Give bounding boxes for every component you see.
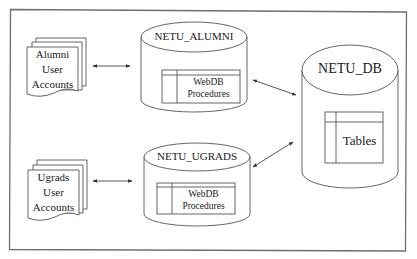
netu-db-tables-label: Tables bbox=[336, 134, 383, 149]
ugrads-accounts-line-1: Ugrads bbox=[28, 170, 79, 185]
netu-alumni-procedures-line-1: WebDB bbox=[177, 76, 240, 88]
netu-ugrads-procedures-line-1: WebDB bbox=[172, 188, 235, 200]
netu-alumni-procedures-label: WebDB Procedures bbox=[177, 76, 240, 100]
alumni-accounts-line-2: User bbox=[27, 62, 78, 77]
netu-ugrads-procedures-line-2: Procedures bbox=[172, 200, 235, 212]
netu-ugrads-title: NETU_UGRADS bbox=[144, 150, 250, 163]
netu-ugrads-procedures-label: WebDB Procedures bbox=[172, 188, 235, 212]
ugrads-accounts-label: Ugrads User Accounts bbox=[28, 170, 79, 215]
alumni-accounts-line-3: Accounts bbox=[27, 77, 78, 92]
netu-alumni-procedures-line-2: Procedures bbox=[177, 88, 240, 100]
netu-alumni-title: NETU_ALUMNI bbox=[141, 30, 247, 43]
arrow-netu-ugrads-to-netu-db bbox=[253, 142, 293, 167]
alumni-accounts-line-1: Alumni bbox=[27, 47, 78, 62]
ugrads-accounts-line-2: User bbox=[28, 185, 79, 200]
netu-db-title: NETU_DB bbox=[302, 61, 398, 77]
alumni-accounts-label: Alumni User Accounts bbox=[27, 47, 78, 92]
arrow-netu-alumni-to-netu-db bbox=[253, 80, 296, 95]
ugrads-accounts-line-3: Accounts bbox=[28, 200, 79, 215]
